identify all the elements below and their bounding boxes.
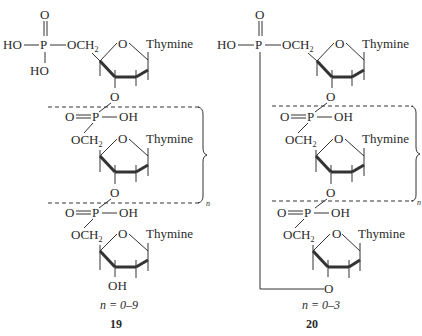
compound-number-19: 19 xyxy=(110,317,122,331)
terminal-ring-oxygen: O xyxy=(118,226,127,241)
repeat-linker-oxygen-20: O xyxy=(326,185,335,200)
terminal-phosphate-p: P xyxy=(92,205,99,220)
structure-19: O HO P OCH2 HO O Thymine O O P OH OCH2 O xyxy=(3,7,210,331)
phosphate-p-20: P xyxy=(255,37,262,52)
range-label-19: n = 0–9 xyxy=(100,298,138,312)
terminal-thymine-label-20: Thymine xyxy=(358,226,405,241)
repeat-och2-20: OCH2 xyxy=(285,132,316,149)
repeat-phosphate-o-20: O xyxy=(280,109,289,124)
repeat-linker-oxygen: O xyxy=(110,185,119,200)
terminal-phosphate-oh: OH xyxy=(119,205,138,220)
repeat-phosphate-oh: OH xyxy=(119,109,138,124)
terminal-phosphate-p-20: P xyxy=(304,205,311,220)
terminal-och2-20: OCH2 xyxy=(283,227,314,244)
phosphate-ho-bottom: HO xyxy=(30,63,49,78)
och2-label-20: OCH2 xyxy=(282,37,313,54)
repeat-ring-oxygen: O xyxy=(118,131,127,146)
thymine-label-20: Thymine xyxy=(362,36,409,51)
repeat-och2: OCH2 xyxy=(71,132,102,149)
phosphate-oxo-o-20: O xyxy=(255,7,264,22)
terminal-3-oxygen-20: O xyxy=(324,281,333,296)
och2-label: OCH2 xyxy=(67,37,98,54)
bracket-subscript-n: n xyxy=(206,199,210,208)
repeat-ring-oxygen-20: O xyxy=(334,131,343,146)
phosphate-ho-left-20: HO xyxy=(217,37,236,52)
thymine-label: Thymine xyxy=(146,36,193,51)
phosphate-p: P xyxy=(40,37,47,52)
linker-oxygen-20: O xyxy=(326,89,335,104)
repeat-thymine-label: Thymine xyxy=(146,131,193,146)
bracket-subscript-n-20: n xyxy=(417,198,421,207)
ring-oxygen: O xyxy=(118,36,127,51)
linker-oxygen: O xyxy=(110,89,119,104)
repeat-phosphate-p-20: P xyxy=(307,109,314,124)
curly-brace xyxy=(198,107,207,203)
repeat-phosphate-p: P xyxy=(92,109,99,124)
curly-brace-20 xyxy=(411,106,420,201)
terminal-phosphate-oh-20: OH xyxy=(331,205,350,220)
repeat-phosphate-o: O xyxy=(65,109,74,124)
repeat-phosphate-oh-20: OH xyxy=(334,109,353,124)
terminal-phosphate-o: O xyxy=(65,205,74,220)
terminal-3-oh: OH xyxy=(108,278,127,293)
phosphate-oxo-o: O xyxy=(40,7,49,22)
range-label-20: n = 0–3 xyxy=(302,298,340,312)
structure-20: O HO P OCH2 O Thymine O O P OH OCH2 O Th… xyxy=(217,7,421,331)
chemical-structures-diagram: O HO P OCH2 HO O Thymine O O P OH OCH2 O xyxy=(0,0,422,336)
terminal-ring-oxygen-20: O xyxy=(332,226,341,241)
phosphate-ho-left: HO xyxy=(3,37,22,52)
terminal-och2: OCH2 xyxy=(71,227,102,244)
terminal-thymine-label: Thymine xyxy=(146,226,193,241)
repeat-thymine-label-20: Thymine xyxy=(362,131,409,146)
compound-number-20: 20 xyxy=(306,317,318,331)
ring-oxygen-20: O xyxy=(335,36,344,51)
terminal-phosphate-o-20: O xyxy=(277,205,286,220)
